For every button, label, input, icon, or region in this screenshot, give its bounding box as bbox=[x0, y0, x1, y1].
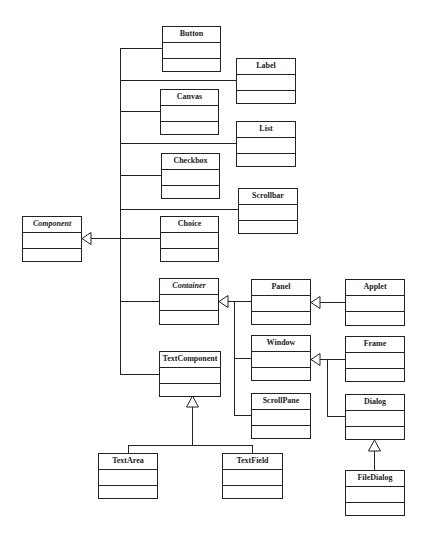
uml-diagram: Button Label Canvas List Checkbox Scroll… bbox=[0, 0, 425, 533]
class-operations bbox=[346, 312, 404, 325]
class-dialog: Dialog bbox=[345, 394, 405, 440]
class-attributes bbox=[237, 138, 295, 154]
class-operations bbox=[252, 426, 310, 438]
class-textarea: TextArea bbox=[98, 453, 158, 499]
class-choice: Choice bbox=[160, 216, 219, 262]
class-operations bbox=[346, 369, 404, 381]
class-operations bbox=[346, 427, 404, 439]
class-label: Label bbox=[236, 58, 296, 104]
class-operations bbox=[160, 384, 220, 396]
class-attributes bbox=[162, 170, 219, 186]
class-operations bbox=[237, 91, 295, 103]
class-name: Dialog bbox=[346, 395, 404, 411]
class-name: TextComponent bbox=[160, 352, 220, 368]
class-name: Frame bbox=[346, 337, 404, 353]
inheritance-arrow-component bbox=[82, 233, 91, 245]
class-attributes bbox=[346, 296, 404, 312]
class-name: Applet bbox=[346, 280, 404, 296]
class-scrollpane: ScrollPane bbox=[251, 393, 311, 439]
class-frame: Frame bbox=[345, 336, 405, 382]
class-name: Canvas bbox=[161, 90, 218, 106]
class-attributes bbox=[160, 295, 218, 311]
class-textfield: TextField bbox=[222, 453, 283, 499]
class-name: Component bbox=[23, 217, 81, 233]
class-name: Panel bbox=[252, 280, 310, 296]
inheritance-arrow-container bbox=[219, 296, 228, 308]
class-attributes bbox=[161, 233, 218, 249]
class-name: ScrollPane bbox=[252, 394, 310, 410]
class-operations bbox=[346, 503, 404, 515]
class-operations bbox=[161, 122, 218, 134]
class-attributes bbox=[160, 368, 220, 384]
class-attributes bbox=[346, 411, 404, 427]
class-name: TextField bbox=[223, 454, 282, 470]
class-attributes bbox=[346, 353, 404, 369]
class-button: Button bbox=[162, 26, 221, 72]
class-canvas: Canvas bbox=[160, 89, 219, 135]
class-attributes bbox=[252, 410, 310, 426]
class-name: Label bbox=[237, 59, 295, 75]
class-attributes bbox=[237, 75, 295, 91]
class-operations bbox=[237, 154, 295, 166]
class-textcomponent: TextComponent bbox=[159, 351, 221, 397]
class-attributes bbox=[163, 43, 220, 59]
class-operations bbox=[239, 221, 297, 233]
class-operations bbox=[99, 486, 157, 498]
class-attributes bbox=[161, 106, 218, 122]
class-name: FileDialog bbox=[346, 471, 404, 487]
class-operations bbox=[223, 486, 282, 498]
class-name: Button bbox=[163, 27, 220, 43]
class-component: Component bbox=[22, 216, 82, 262]
class-operations bbox=[160, 311, 218, 324]
class-operations bbox=[252, 312, 310, 324]
class-scrollbar: Scrollbar bbox=[238, 188, 298, 234]
connector-lines bbox=[0, 0, 425, 533]
class-attributes bbox=[223, 470, 282, 486]
class-attributes bbox=[239, 205, 297, 221]
class-attributes bbox=[99, 470, 157, 486]
class-filedialog: FileDialog bbox=[345, 470, 405, 516]
class-operations bbox=[23, 249, 81, 261]
class-attributes bbox=[252, 352, 310, 368]
class-name: Checkbox bbox=[162, 154, 219, 170]
class-panel: Panel bbox=[251, 279, 311, 325]
class-operations bbox=[163, 59, 220, 71]
class-applet: Applet bbox=[345, 279, 405, 326]
class-name: Window bbox=[252, 336, 310, 352]
class-attributes bbox=[23, 233, 81, 249]
class-operations bbox=[161, 249, 218, 261]
class-name: Scrollbar bbox=[239, 189, 297, 205]
inheritance-arrow-window bbox=[311, 354, 320, 366]
class-operations bbox=[162, 186, 219, 198]
inheritance-arrow-dialog bbox=[369, 440, 381, 451]
class-name: Choice bbox=[161, 217, 218, 233]
inheritance-arrow-textcomponent bbox=[187, 396, 199, 407]
class-container: Container bbox=[159, 278, 219, 325]
class-checkbox: Checkbox bbox=[161, 153, 220, 199]
class-attributes bbox=[346, 487, 404, 503]
class-attributes bbox=[252, 296, 310, 312]
class-operations bbox=[252, 368, 310, 380]
class-name: List bbox=[237, 122, 295, 138]
class-name: TextArea bbox=[99, 454, 157, 470]
class-window: Window bbox=[251, 335, 311, 381]
class-name: Container bbox=[160, 279, 218, 295]
class-list: List bbox=[236, 121, 296, 167]
inheritance-arrow-panel bbox=[311, 297, 320, 309]
